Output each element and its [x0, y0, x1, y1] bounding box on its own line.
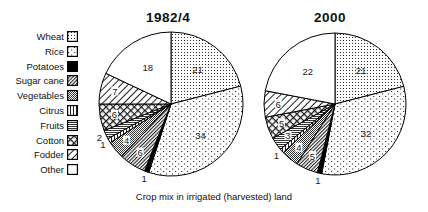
- slice-value-label: 4: [124, 135, 129, 146]
- slice-value-label: 22: [303, 66, 314, 77]
- pie-charts: 2134164126718 2132154135622: [0, 0, 428, 212]
- slice-value-label: 21: [356, 65, 367, 76]
- slice-value-label: 2: [97, 132, 102, 143]
- slice-value-label: 1: [274, 150, 279, 161]
- slice-value-label: 7: [112, 86, 117, 97]
- pie-1982-4: 2134164126718: [97, 32, 243, 184]
- slice-value-label: 34: [195, 130, 206, 141]
- slice-value-label: 1: [142, 173, 147, 184]
- slice-value-label: 21: [192, 64, 203, 75]
- slice-value-label: 6: [276, 99, 281, 110]
- slice-value-label: 1: [315, 175, 320, 186]
- slice-value-label: 18: [143, 62, 154, 73]
- slice-value-label: 6: [112, 109, 117, 120]
- slice-value-label: 5: [279, 118, 284, 129]
- slice-value-label: 6: [137, 147, 142, 158]
- slice-value-label: 32: [361, 128, 372, 139]
- slice-value-label: 3: [285, 130, 290, 141]
- pie-2000: 2132154135622: [264, 33, 406, 186]
- slice-value-label: 4: [296, 142, 301, 153]
- slice-value-label: 5: [310, 151, 315, 162]
- chart-caption: Crop mix in irrigated (harvested) land: [0, 191, 428, 202]
